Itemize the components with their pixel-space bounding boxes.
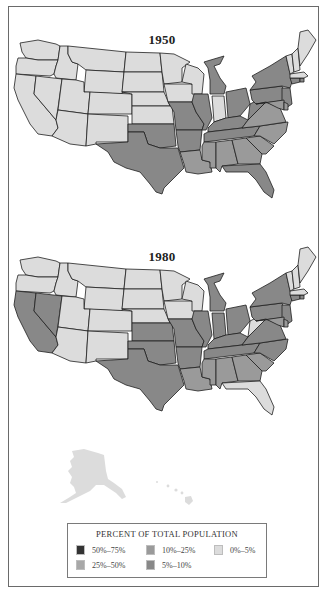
state-ct: [290, 78, 300, 84]
state-ia: [164, 84, 196, 102]
state-fl: [222, 164, 274, 198]
state-wa: [20, 257, 60, 277]
legend-swatch: [214, 545, 223, 555]
state-in: [212, 96, 226, 122]
legend-label: 10%–25%: [162, 546, 195, 555]
state-ny: [250, 56, 292, 90]
state-ny: [250, 273, 292, 307]
state-ar: [176, 347, 202, 369]
us-map-1950: [0, 0, 324, 200]
state-ri: [300, 295, 304, 299]
legend-swatch: [146, 560, 155, 570]
state-fl: [222, 381, 274, 415]
state-or: [16, 58, 58, 76]
state-mi: [204, 273, 226, 311]
state-ia: [164, 301, 196, 319]
legend-swatch: [146, 545, 155, 555]
state-oh: [226, 88, 250, 118]
legend-item-25-50: 25%–50%: [76, 560, 125, 570]
state-ri: [300, 78, 304, 82]
state-nm: [86, 114, 128, 146]
legend: PERCENT OF TOTAL POPULATION 50%–75% 10%–…: [67, 523, 267, 578]
state-wy: [84, 70, 124, 94]
state-sd: [122, 289, 164, 309]
alaska: [60, 449, 126, 503]
legend-swatch: [76, 560, 85, 570]
state-ks: [132, 106, 174, 124]
legend-label: 25%–50%: [92, 561, 125, 570]
legend-label: 50%–75%: [92, 546, 125, 555]
hawaii: [156, 481, 193, 505]
state-co: [88, 92, 132, 114]
state-nd: [124, 52, 162, 72]
legend-item-10-25: 10%–25%: [146, 545, 195, 555]
state-ar: [176, 130, 202, 152]
legend-item-5-10: 5%–10%: [146, 560, 191, 570]
legend-label: 0%–5%: [230, 546, 255, 555]
state-me: [298, 247, 316, 283]
legend-item-0-5: 0%–5%: [214, 545, 255, 555]
legend-label: 5%–10%: [162, 561, 191, 570]
state-sd: [122, 72, 164, 92]
state-mi: [204, 56, 226, 94]
us-map-1980: [0, 217, 324, 417]
state-ct: [290, 295, 300, 301]
state-or: [16, 275, 58, 293]
legend-item-50-75: 50%–75%: [76, 545, 125, 555]
state-nm: [86, 331, 128, 363]
state-me: [298, 30, 316, 66]
legend-title: PERCENT OF TOTAL POPULATION: [68, 529, 266, 539]
state-wy: [84, 287, 124, 311]
state-in: [212, 313, 226, 339]
state-nd: [124, 269, 162, 289]
legend-swatch: [76, 545, 85, 555]
state-oh: [226, 305, 250, 335]
state-wa: [20, 40, 60, 60]
state-ks: [132, 323, 174, 341]
alaska-hawaii-insets: [0, 445, 324, 520]
state-co: [88, 309, 132, 331]
